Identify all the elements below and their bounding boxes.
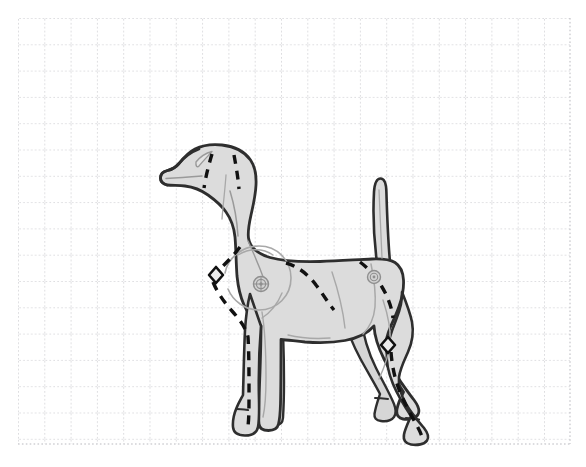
rear-paw-far-line bbox=[375, 398, 388, 399]
front-paw-line bbox=[236, 409, 248, 410]
hip-joint-hub bbox=[373, 276, 376, 279]
front-leg-diamond-marker bbox=[209, 267, 223, 283]
page-canvas: Dog Anatomy Pattern Diagram bbox=[0, 0, 586, 467]
hip-joint bbox=[368, 271, 381, 284]
front-leg-near bbox=[233, 294, 261, 436]
dog-profile-illustration bbox=[0, 0, 586, 467]
front-diamond-shape bbox=[209, 267, 223, 283]
shoulder-joint bbox=[254, 277, 269, 292]
